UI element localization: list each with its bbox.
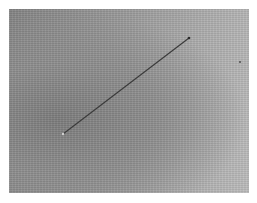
diagonal-line bbox=[63, 38, 189, 134]
line-end-dot bbox=[188, 37, 191, 40]
line-start-dot bbox=[62, 133, 64, 135]
line-overlay bbox=[0, 0, 257, 203]
speck bbox=[239, 61, 241, 63]
